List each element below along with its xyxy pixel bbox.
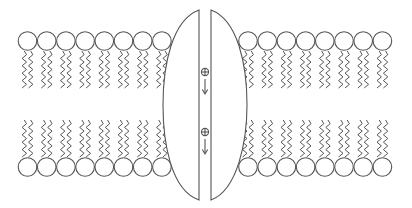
lipid-head [296,158,315,177]
lipid-tail [105,51,109,88]
lipid-tail [67,120,71,157]
lipid-head [354,158,373,177]
lipid-tail [118,120,122,157]
lipid-tail [86,120,90,157]
lipid-head [57,32,76,51]
lipid-tail [319,51,323,88]
lipid-head [239,32,258,51]
lipid-tail [22,51,26,88]
lipid-tail [22,120,26,157]
lipid-head [373,32,392,51]
lipid-head [76,32,95,51]
lipid-tail [29,51,33,88]
lipid-head [57,158,76,177]
lipid-tail [345,51,349,88]
lipid-head [95,32,114,51]
lipid-tail [48,120,52,157]
lipid-tail [48,51,52,88]
lipid-tail [339,120,343,157]
lipid-head [114,158,133,177]
lipid-tail [99,120,103,157]
lipid-tail [262,120,266,157]
lipid-head [335,32,354,51]
lipid-tail [268,51,272,88]
lipid-head [18,158,37,177]
lipid-tail [262,51,266,88]
lipid-head [277,32,296,51]
left-top-lipid-heads [18,32,171,51]
right-top-lipid-heads [239,32,392,51]
lipid-head [37,158,56,177]
diagram-canvas [0,0,412,208]
lipid-head [95,158,114,177]
lipid-tail [125,120,129,157]
lipid-tail [61,120,65,157]
lipid-tail [249,120,253,157]
ion-2 [201,128,208,154]
lipid-head [153,32,172,51]
lipid-tail [80,120,84,157]
lipid-head [335,158,354,177]
lipid-tail [319,120,323,157]
lipid-head [37,32,56,51]
lipid-head [277,158,296,177]
lipid-tail [383,51,387,88]
lipid-tail [137,120,141,157]
lipid-tail [364,51,368,88]
lipid-head [114,32,133,51]
lipid-head [296,32,315,51]
lipid-tail [249,51,253,88]
lipid-tail [61,51,65,88]
lipid-tail [339,51,343,88]
lipid-tail [326,51,330,88]
lipid-tail [80,51,84,88]
lipid-tail [358,120,362,157]
lipid-tail [125,51,129,88]
lipid-tail [144,51,148,88]
ion-1 [201,68,208,94]
lipid-tail [29,120,33,157]
lipid-tail [118,51,122,88]
lipid-tail [377,120,381,157]
lipid-tail [326,120,330,157]
lipid-tail [67,51,71,88]
lipid-head [316,32,335,51]
lipid-head [18,32,37,51]
lipid-tail [268,120,272,157]
left-bottom-lipid-heads [18,158,171,177]
lipid-tail [157,120,161,157]
lipid-head [316,158,335,177]
lipid-tail [41,51,45,88]
lipid-tail [137,51,141,88]
lipid-head [76,158,95,177]
lipid-head [239,158,258,177]
left-bottom-lipid-tails [22,120,167,157]
lipid-head [133,158,152,177]
lipid-tail [287,51,291,88]
right-top-lipid-tails [243,51,388,88]
lipid-head [258,158,277,177]
lipid-tail [307,120,311,157]
lipid-tail [307,51,311,88]
lipid-head [133,32,152,51]
lipid-head [373,158,392,177]
lipid-head [354,32,373,51]
lipid-tail [86,51,90,88]
lipid-tail [281,51,285,88]
lipid-tail [99,51,103,88]
lipid-tail [41,120,45,157]
lipid-tail [157,51,161,88]
lipid-tail [383,120,387,157]
lipid-head [258,32,277,51]
lipid-tail [358,51,362,88]
membrane-channel-diagram: ⊕ ⊕ [0,0,412,208]
lipid-head [153,158,172,177]
lipid-tail [300,51,304,88]
lipid-tail [105,120,109,157]
left-top-lipid-tails [22,51,167,88]
lipid-tail [281,120,285,157]
lipid-tail [345,120,349,157]
lipid-tail [144,120,148,157]
right-bottom-lipid-tails [243,120,388,157]
lipid-tail [377,51,381,88]
